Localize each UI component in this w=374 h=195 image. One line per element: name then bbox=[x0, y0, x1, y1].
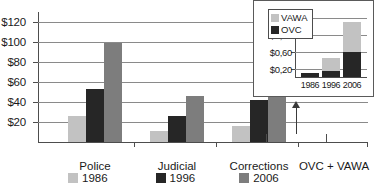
legend-item-2006: 2006 bbox=[239, 172, 279, 184]
inset-y-axis-label-0-20: $0,20 bbox=[270, 64, 292, 75]
inset-x-axis-line bbox=[295, 77, 367, 78]
bar-police-1986 bbox=[68, 116, 86, 142]
bar-police-1996 bbox=[86, 89, 104, 142]
legend-swatch-2006-icon bbox=[239, 173, 249, 183]
y-axis-label-100: $100 bbox=[1, 36, 26, 48]
y-tick-120 bbox=[33, 22, 38, 23]
inset-legend-label-vawa: VAWA bbox=[281, 12, 308, 24]
inset-bar-1996-ovc bbox=[322, 71, 340, 77]
inset-x-axis-label-1986: 1986 bbox=[301, 80, 319, 90]
y-axis-label-40: $40 bbox=[7, 96, 26, 108]
inset-bar-1996-vawa bbox=[322, 58, 340, 71]
x-tick-sep-3 bbox=[298, 143, 299, 147]
y-tick-20 bbox=[33, 122, 38, 123]
inset-legend-swatch-ovc-icon bbox=[271, 26, 279, 34]
y-tick-80 bbox=[33, 62, 38, 63]
legend-swatch-1986-icon bbox=[68, 173, 78, 183]
y-tick-60 bbox=[33, 82, 38, 83]
inset-bar-2006-vawa bbox=[343, 22, 361, 52]
legend-label-1996: 1996 bbox=[170, 172, 196, 184]
x-tick-sep-4 bbox=[367, 143, 368, 147]
y-axis-label-60: $60 bbox=[7, 76, 26, 88]
y-tick-40 bbox=[33, 102, 38, 103]
callout-arrow-stem bbox=[296, 108, 297, 134]
inset-x-axis-label-2006: 2006 bbox=[343, 80, 361, 90]
inset-y-axis-label-0-60: $0,60 bbox=[270, 47, 292, 58]
inset-x-axis-label-1996: 1996 bbox=[322, 80, 340, 90]
inset-bar-1986-ovc bbox=[301, 73, 319, 77]
legend-item-1996: 1996 bbox=[156, 172, 196, 184]
inset-legend-item-vawa: VAWA bbox=[271, 12, 308, 24]
x-tick-sep-2 bbox=[216, 143, 217, 147]
y-tick-100 bbox=[33, 42, 38, 43]
bar-judicial-1996 bbox=[168, 116, 186, 142]
inset-legend-item-ovc: OVC bbox=[271, 24, 308, 36]
inset-legend: VAWA OVC bbox=[268, 9, 313, 39]
y-axis-line bbox=[38, 12, 39, 143]
x-tick-sep-1 bbox=[134, 143, 135, 147]
ovc-vawa-bracket bbox=[266, 134, 327, 143]
bar-chart-figure: $20 $40 $60 $80 $100 $120 bbox=[0, 0, 374, 195]
chart-legend: 1986 1996 2006 bbox=[38, 168, 368, 188]
bar-judicial-1986 bbox=[150, 131, 168, 142]
inset-legend-label-ovc: OVC bbox=[281, 24, 302, 36]
y-axis-label-20: $20 bbox=[7, 116, 26, 128]
callout-arrow-head-icon bbox=[292, 101, 300, 108]
bar-corrections-1986 bbox=[232, 126, 250, 142]
legend-item-1986: 1986 bbox=[68, 172, 108, 184]
bar-police-2006 bbox=[104, 43, 122, 142]
legend-label-2006: 2006 bbox=[253, 172, 279, 184]
legend-swatch-1996-icon bbox=[156, 173, 166, 183]
y-axis-label-120: $120 bbox=[1, 16, 26, 28]
legend-label-1986: 1986 bbox=[82, 172, 108, 184]
inset-panel: $0,20 $0,60 $1,00 $1,40 1986 1996 2006 bbox=[253, 0, 374, 97]
y-axis-label-80: $80 bbox=[7, 56, 26, 68]
bar-judicial-2006 bbox=[186, 96, 204, 142]
inset-legend-swatch-vawa-icon bbox=[271, 14, 279, 22]
inset-bar-2006-ovc bbox=[343, 52, 361, 77]
